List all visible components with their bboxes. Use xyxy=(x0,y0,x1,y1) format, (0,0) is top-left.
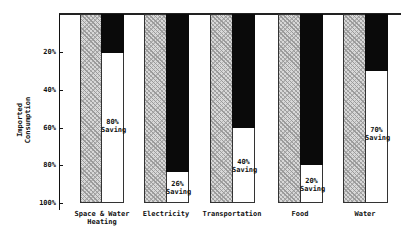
y-tick-80 xyxy=(59,165,63,166)
y-tick-label-80: 80% xyxy=(16,161,56,169)
saving-text: Saving xyxy=(300,185,323,193)
saving-label: 80% Saving xyxy=(101,118,124,134)
saving-text: Saving xyxy=(101,126,124,134)
y-tick-60 xyxy=(59,128,63,129)
y-axis-label-line2: Consumption xyxy=(24,90,32,150)
category-label-line2: Heating xyxy=(67,218,137,226)
y-axis-label-line1: Imported xyxy=(16,90,24,150)
y-axis-line xyxy=(59,14,60,210)
bar-hatched xyxy=(343,14,366,203)
category-label: Water xyxy=(330,210,400,218)
saving-label: 20% Saving xyxy=(300,177,323,193)
bar-remaining xyxy=(166,14,189,172)
y-tick-100 xyxy=(59,203,63,204)
category-label-line1: Food xyxy=(265,210,335,218)
y-tick-label-40: 40% xyxy=(16,86,56,94)
category-label-line1: Water xyxy=(330,210,400,218)
bar-remaining xyxy=(101,14,124,53)
y-tick-40 xyxy=(59,90,63,91)
saving-label: 26% Saving xyxy=(166,180,189,196)
saving-percent: 70% xyxy=(365,126,388,134)
bar-hatched xyxy=(80,14,102,203)
saving-label: 70% Saving xyxy=(365,126,388,142)
y-tick-label-20: 20% xyxy=(16,48,56,56)
bar-remaining xyxy=(365,14,388,71)
category-label-line1: Electricity xyxy=(131,210,201,218)
category-label-line1: Transportation xyxy=(197,210,267,218)
y-axis-label: Imported Consumption xyxy=(16,90,32,150)
category-label: Transportation xyxy=(197,210,267,218)
bar-hatched xyxy=(278,14,301,203)
bar-remaining xyxy=(300,14,323,165)
bar-hatched xyxy=(210,14,233,203)
y-tick-label-100: 100% xyxy=(16,199,56,207)
bar-hatched xyxy=(144,14,167,203)
saving-text: Saving xyxy=(232,166,255,174)
saving-percent: 26% xyxy=(166,180,189,188)
category-label-line1: Space & Water xyxy=(67,210,137,218)
saving-percent: 20% xyxy=(300,177,323,185)
saving-text: Saving xyxy=(166,188,189,196)
y-tick-label-60: 60% xyxy=(16,124,56,132)
saving-percent: 40% xyxy=(232,158,255,166)
saving-label: 40% Saving xyxy=(232,158,255,174)
category-label: Space & Water Heating xyxy=(67,210,137,226)
category-label: Electricity xyxy=(131,210,201,218)
saving-percent: 80% xyxy=(101,118,124,126)
bar-chart: Imported Consumption 20% 40% 60% 80% 100… xyxy=(0,0,417,235)
y-tick-20 xyxy=(59,52,63,53)
category-label: Food xyxy=(265,210,335,218)
bar-remaining xyxy=(232,14,255,128)
saving-text: Saving xyxy=(365,134,388,142)
